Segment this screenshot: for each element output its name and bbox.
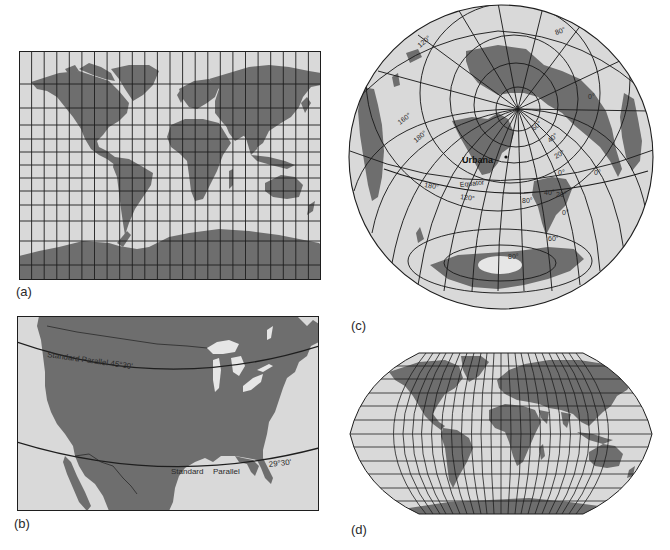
mercator-map bbox=[19, 51, 321, 280]
label-parallel-word: Parallel bbox=[213, 467, 240, 476]
label-0-c: 0° bbox=[588, 93, 595, 100]
label-s60: 60° bbox=[548, 235, 559, 242]
label-20-b: 20° bbox=[556, 191, 567, 198]
label-0-a: 0° bbox=[558, 169, 565, 176]
us-conic-map: Standard Parallel 45°30' Standard Parall… bbox=[17, 316, 319, 511]
label-80: 80° bbox=[522, 197, 533, 204]
label-0-b: 0° bbox=[594, 169, 601, 176]
panel-label-b: (b) bbox=[14, 516, 30, 531]
label-0-d: 0° bbox=[562, 209, 569, 216]
urbana-marker bbox=[504, 155, 507, 158]
robinson-map-panel bbox=[349, 352, 653, 515]
azimuthal-map-panel: 120° 160° 180° 180° 120° 80° 80° 60° 40°… bbox=[348, 1, 658, 313]
mercator-map-panel bbox=[19, 51, 321, 280]
panel-label-c: (c) bbox=[351, 318, 366, 333]
label-40-b: 40° bbox=[544, 189, 555, 196]
label-urbana: Urbana bbox=[462, 155, 494, 165]
panel-label-a: (a) bbox=[16, 284, 32, 299]
robinson-map bbox=[349, 352, 653, 515]
panel-label-d: (d) bbox=[351, 522, 367, 537]
us-conic-map-panel: Standard Parallel 45°30' Standard Parall… bbox=[17, 316, 319, 511]
azimuthal-map: 120° 160° 180° 180° 120° 80° 80° 60° 40°… bbox=[348, 1, 658, 313]
label-standard-word: Standard bbox=[171, 467, 203, 476]
label-s80: 80° bbox=[508, 253, 519, 260]
